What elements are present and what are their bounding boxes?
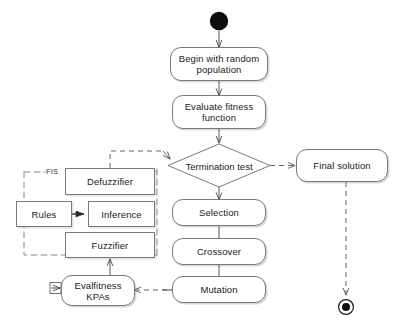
activity-fuzzifier[interactable]: Fuzzifier (65, 232, 155, 258)
receive-signal-icon (50, 283, 61, 294)
decision-termination-test-label: Termination test (185, 161, 252, 172)
activity-evalfitness-kpas-label: Evalfitness KPAs (68, 280, 127, 302)
end-node (339, 300, 354, 315)
activity-selection[interactable]: Selection (172, 199, 266, 226)
start-node (210, 12, 228, 30)
fis-group-label: FIS (46, 167, 58, 176)
activity-mutation[interactable]: Mutation (172, 276, 266, 303)
activity-rules-label: Rules (29, 209, 60, 220)
activity-fuzzifier-label: Fuzzifier (89, 240, 132, 251)
activity-evalfitness-kpas[interactable]: Evalfitness KPAs (61, 275, 135, 306)
activity-mutation-label: Mutation (197, 284, 240, 295)
activity-defuzzifier[interactable]: Defuzzifier (65, 168, 155, 195)
activity-inference[interactable]: Inference (88, 201, 155, 227)
activity-rules[interactable]: Rules (16, 201, 72, 227)
activity-crossover[interactable]: Crossover (172, 238, 266, 265)
activity-evaluate-fitness[interactable]: Evaluate fitness function (172, 95, 266, 129)
activity-begin-population[interactable]: Begin with random population (170, 47, 268, 81)
edge-defuzzifier-to-termination (110, 151, 170, 168)
activity-crossover-label: Crossover (194, 246, 244, 257)
decision-termination-test[interactable]: Termination test (180, 152, 258, 180)
activity-final-solution-label: Final solution (310, 160, 373, 171)
activity-evaluate-fitness-label: Evaluate fitness function (179, 101, 260, 123)
activity-selection-label: Selection (196, 207, 242, 218)
activity-defuzzifier-label: Defuzzifier (84, 176, 136, 187)
activity-final-solution[interactable]: Final solution (296, 149, 388, 182)
activity-begin-population-label: Begin with random population (173, 53, 265, 75)
activity-inference-label: Inference (98, 209, 145, 220)
activity-diagram-canvas: Begin with random population Evaluate fi… (0, 0, 396, 330)
